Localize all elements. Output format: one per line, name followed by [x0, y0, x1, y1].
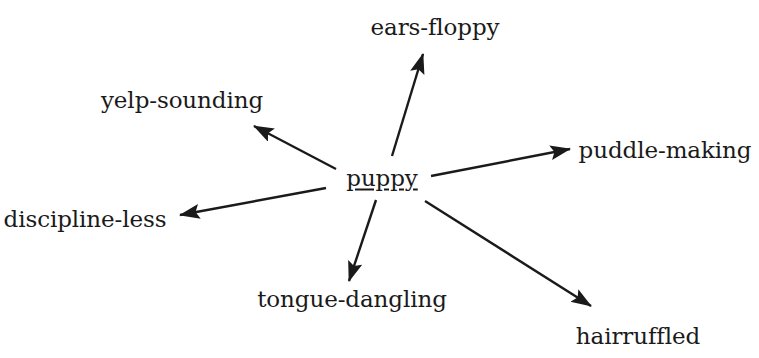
- node-hairruffled: hairruffled: [576, 325, 700, 348]
- node-tongue-dangling: tongue-dangling: [257, 288, 447, 311]
- node-yelp-sounding: yelp-sounding: [101, 89, 263, 112]
- node-puddle-making: puddle-making: [579, 139, 752, 162]
- arrow-to-yelp-sounding: [254, 126, 336, 169]
- arrow-to-hairruffled: [425, 201, 591, 306]
- arrow-to-puddle-making: [431, 149, 570, 176]
- arrow-to-ears-floppy: [392, 54, 423, 156]
- center-node-puppy: puppy: [346, 167, 417, 190]
- word-web-diagram: puppy ears-floppy yelp-sounding puddle-m…: [0, 0, 759, 358]
- node-ears-floppy: ears-floppy: [371, 16, 500, 39]
- arrow-to-discipline-less: [180, 188, 326, 215]
- node-discipline-less: discipline-less: [4, 208, 167, 231]
- arrow-to-tongue-dangling: [349, 200, 376, 281]
